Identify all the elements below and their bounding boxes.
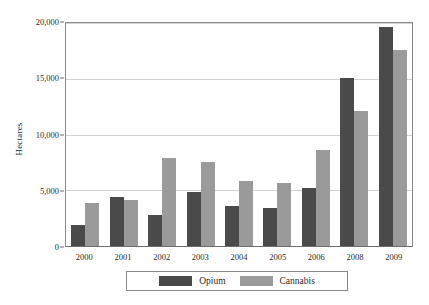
y-axis-tick-label: 5,000 (5, 186, 65, 196)
legend-entry-opium[interactable]: Opium (159, 276, 225, 286)
x-axis-tick-label: 2002 (142, 249, 181, 265)
bar-group (335, 23, 373, 246)
bar-cannabis-2005 (277, 183, 291, 246)
legend-swatch-opium (159, 276, 192, 286)
y-axis-tick-label: 20,000 (5, 17, 65, 27)
bar-cannabis-2004 (239, 181, 253, 246)
y-axis-tick-mark (60, 134, 64, 135)
x-axis-tick-label: 2009 (374, 249, 413, 265)
y-axis-tick-mark (60, 78, 64, 79)
bar-cannabis-2001 (124, 200, 138, 246)
bar-group (220, 23, 258, 246)
y-axis-tick-mark (60, 247, 64, 248)
plot-inner (66, 23, 412, 246)
legend-label-cannabis: Cannabis (280, 276, 315, 286)
y-axis-tick-label: 10,000 (5, 130, 65, 140)
bar-group (258, 23, 296, 246)
bar-group (297, 23, 335, 246)
bar-opium-2006 (302, 188, 316, 246)
bar-group (374, 23, 412, 246)
bar-group (143, 23, 181, 246)
bar-opium-2000 (71, 225, 85, 246)
bar-opium-2005 (263, 208, 277, 246)
bar-opium-2001 (110, 197, 124, 246)
bar-opium-2009 (379, 27, 393, 246)
x-axis-tick-label: 2001 (104, 249, 143, 265)
bar-group (66, 23, 104, 246)
chart-legend: OpiumCannabis (126, 271, 348, 291)
y-axis-tick-label: 15,000 (5, 73, 65, 83)
x-axis-tick-label: 2008 (336, 249, 375, 265)
bar-group (181, 23, 219, 246)
gridline (66, 246, 412, 247)
bar-group (104, 23, 142, 246)
plot-area (65, 22, 413, 247)
x-axis-tick-label: 2003 (181, 249, 220, 265)
y-axis-tick-mark (60, 22, 64, 23)
x-axis-tick-label: 2000 (65, 249, 104, 265)
x-axis-tick-label: 2006 (297, 249, 336, 265)
legend-label-opium: Opium (199, 276, 225, 286)
bar-groups (66, 23, 412, 246)
bar-opium-2004 (225, 206, 239, 246)
x-axis-tick-label: 2004 (220, 249, 259, 265)
legend-entry-cannabis[interactable]: Cannabis (240, 276, 315, 286)
chart-figure: Hectares 05,00010,00015,00020,000 200020… (0, 0, 429, 305)
bar-cannabis-2008 (354, 111, 368, 246)
legend-swatch-cannabis (240, 276, 273, 286)
bar-opium-2002 (148, 215, 162, 246)
y-axis-tick-label: 0 (5, 242, 65, 252)
bar-cannabis-2009 (393, 50, 407, 246)
x-axis-tick-label: 2005 (258, 249, 297, 265)
x-axis-ticks: 200020012002200320042005200620082009 (65, 249, 413, 265)
bar-cannabis-2006 (316, 150, 330, 246)
bar-cannabis-2000 (85, 203, 99, 246)
bar-opium-2003 (187, 192, 201, 246)
bar-cannabis-2002 (162, 158, 176, 246)
bar-cannabis-2003 (201, 162, 215, 246)
y-axis-tick-mark (60, 190, 64, 191)
bar-opium-2008 (340, 78, 354, 246)
